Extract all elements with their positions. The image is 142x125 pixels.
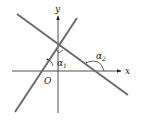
x-axis-label: x — [125, 66, 130, 76]
angle-arc-alpha2 — [88, 61, 104, 71]
angle-label-alpha1: α1 — [57, 58, 67, 69]
y-axis-label: y — [54, 4, 61, 14]
diagram-canvas: y x O α1 α2 — [0, 0, 142, 125]
line-1 — [15, 18, 77, 112]
coordinate-diagram: y x O α1 α2 — [0, 0, 142, 125]
angle-label-alpha2: α2 — [96, 51, 106, 62]
origin-label: O — [44, 76, 52, 86]
